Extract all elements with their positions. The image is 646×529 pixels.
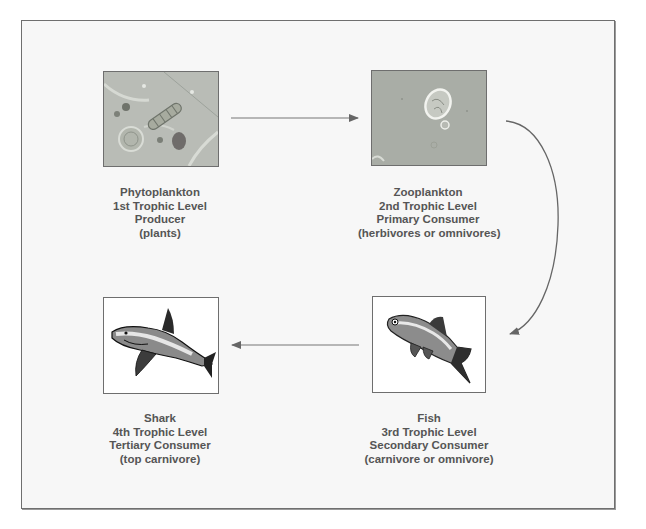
arrows-layer xyxy=(0,0,646,529)
arrow-zooplankton-to-fish xyxy=(506,121,558,334)
